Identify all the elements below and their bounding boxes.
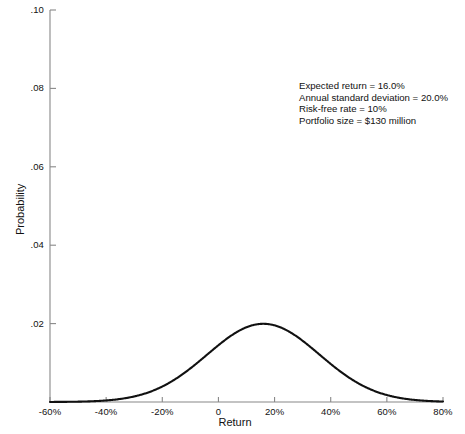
y-axis-tick-label: .06 bbox=[0, 161, 44, 172]
y-axis-tick-label: .04 bbox=[0, 239, 44, 250]
y-axis-title: Probability bbox=[14, 184, 26, 235]
y-axis-ticks bbox=[50, 10, 56, 324]
probability-distribution-chart: .02.04.06.08.10 -60%-40%-20%020%40%60%80… bbox=[0, 0, 465, 434]
axis-lines bbox=[50, 10, 443, 402]
chart-canvas bbox=[0, 0, 465, 434]
x-axis-title: Return bbox=[185, 416, 285, 428]
y-axis-tick-label: .10 bbox=[0, 4, 44, 15]
annotation-standard-deviation: Annual standard deviation = 20.0% bbox=[299, 92, 448, 104]
x-axis-tick-label: 60% bbox=[357, 406, 417, 417]
y-axis-tick-label: .08 bbox=[0, 82, 44, 93]
annotation-risk-free-rate: Risk-free rate = 10% bbox=[299, 103, 448, 115]
x-axis-tick-label: -40% bbox=[76, 406, 136, 417]
annotation-portfolio-size: Portfolio size = $130 million bbox=[299, 115, 448, 127]
y-axis-tick-label: .02 bbox=[0, 318, 44, 329]
distribution-curve bbox=[50, 324, 443, 402]
x-axis-tick-label: 40% bbox=[301, 406, 361, 417]
x-axis-tick-label: -20% bbox=[132, 406, 192, 417]
chart-annotation-block: Expected return = 16.0% Annual standard … bbox=[299, 80, 448, 126]
annotation-expected-return: Expected return = 16.0% bbox=[299, 80, 448, 92]
x-axis-tick-label: -60% bbox=[20, 406, 80, 417]
x-axis-tick-label: 80% bbox=[413, 406, 465, 417]
